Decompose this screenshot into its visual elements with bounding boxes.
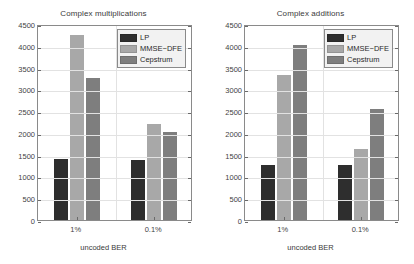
y-tick-mark: [188, 113, 191, 114]
x-tick-mark: [77, 217, 78, 220]
y-tick-mark: [38, 157, 41, 158]
y-tick-label: 0: [208, 217, 242, 226]
y-tick-label: 4000: [1, 42, 35, 51]
y-tick-mark: [38, 26, 41, 27]
legend-swatch-icon: [120, 45, 137, 53]
y-tick-mark: [395, 135, 398, 136]
gridline: [245, 178, 398, 179]
x-tick-label: 0.1%: [352, 225, 369, 234]
gridline: [245, 135, 398, 136]
legend-item[interactable]: Cepstrum: [327, 54, 389, 65]
chart-title: Complex additions: [207, 9, 414, 18]
legend-label: LP: [347, 34, 356, 42]
bar: [338, 165, 352, 220]
y-tick-mark: [245, 200, 248, 201]
y-tick-mark: [38, 135, 41, 136]
x-tick-mark: [154, 217, 155, 220]
gridline: [38, 91, 191, 92]
gridline: [38, 70, 191, 71]
legend-item[interactable]: MMSE−DFE: [120, 43, 182, 54]
y-tick-mark: [188, 91, 191, 92]
x-axis-label: uncoded BER: [0, 243, 207, 252]
y-tick-label: 4500: [208, 21, 242, 30]
y-tick-label: 4500: [1, 21, 35, 30]
y-tick-label: 1500: [208, 151, 242, 160]
gridline: [245, 113, 398, 114]
y-tick-label: 0: [1, 217, 35, 226]
legend-label: MMSE−DFE: [347, 45, 389, 53]
legend: LPMMSE−DFECepstrum: [324, 29, 393, 68]
legend-item[interactable]: MMSE−DFE: [327, 43, 389, 54]
y-tick-mark: [38, 178, 41, 179]
x-tick-label: 1%: [277, 225, 288, 234]
y-tick-label: 1500: [1, 151, 35, 160]
gridline: [38, 157, 191, 158]
y-tick-label: 3500: [1, 64, 35, 73]
x-tick-mark: [361, 217, 362, 220]
bar: [54, 159, 68, 220]
legend-swatch-icon: [327, 45, 344, 53]
y-tick-mark: [38, 200, 41, 201]
y-tick-mark: [188, 26, 191, 27]
legend-swatch-icon: [120, 34, 137, 42]
bar: [147, 124, 161, 220]
gridline: [245, 70, 398, 71]
y-tick-label: 500: [1, 195, 35, 204]
y-tick-mark: [38, 113, 41, 114]
chart-panel-complex-multiplications: Complex multiplications 0500100015002000…: [0, 0, 207, 264]
bar: [293, 45, 307, 220]
y-tick-mark: [188, 178, 191, 179]
bar: [70, 35, 84, 220]
gridline: [245, 157, 398, 158]
y-tick-mark: [395, 48, 398, 49]
y-tick-mark: [245, 157, 248, 158]
y-tick-mark: [245, 91, 248, 92]
gridline: [38, 178, 191, 179]
legend-swatch-icon: [327, 34, 344, 42]
y-tick-mark: [245, 135, 248, 136]
bar: [86, 78, 100, 220]
y-tick-mark: [245, 48, 248, 49]
y-tick-label: 1000: [1, 173, 35, 182]
gridline: [245, 91, 398, 92]
y-tick-label: 2000: [1, 129, 35, 138]
y-tick-mark: [245, 113, 248, 114]
y-tick-mark: [38, 70, 41, 71]
legend-label: LP: [140, 34, 149, 42]
y-tick-mark: [188, 70, 191, 71]
figure-root: Complex multiplications 0500100015002000…: [0, 0, 414, 264]
legend: LPMMSE−DFECepstrum: [117, 29, 186, 68]
bar: [131, 160, 145, 220]
x-tick-label: 0.1%: [145, 225, 162, 234]
y-tick-mark: [395, 26, 398, 27]
y-tick-mark: [245, 26, 248, 27]
legend-label: MMSE−DFE: [140, 45, 182, 53]
legend-item[interactable]: LP: [120, 32, 182, 43]
y-tick-mark: [245, 178, 248, 179]
chart-panel-complex-additions: Complex additions 0500100015002000250030…: [207, 0, 414, 264]
gridline: [38, 200, 191, 201]
y-tick-mark: [395, 200, 398, 201]
y-tick-mark: [38, 91, 41, 92]
y-tick-mark: [188, 200, 191, 201]
y-tick-label: 2500: [208, 108, 242, 117]
y-tick-mark: [38, 48, 41, 49]
x-axis-label: uncoded BER: [207, 243, 414, 252]
legend-label: Cepstrum: [140, 56, 173, 64]
y-tick-label: 3000: [1, 86, 35, 95]
y-tick-mark: [395, 178, 398, 179]
y-tick-mark: [395, 113, 398, 114]
gridline: [245, 200, 398, 201]
legend-swatch-icon: [327, 56, 344, 64]
gridline: [38, 135, 191, 136]
gridline: [38, 113, 191, 114]
legend-item[interactable]: LP: [327, 32, 389, 43]
y-tick-mark: [245, 70, 248, 71]
bar: [277, 75, 291, 220]
y-tick-mark: [188, 48, 191, 49]
y-tick-mark: [188, 135, 191, 136]
y-tick-label: 3000: [208, 86, 242, 95]
y-tick-mark: [395, 157, 398, 158]
y-tick-mark: [188, 157, 191, 158]
legend-item[interactable]: Cepstrum: [120, 54, 182, 65]
